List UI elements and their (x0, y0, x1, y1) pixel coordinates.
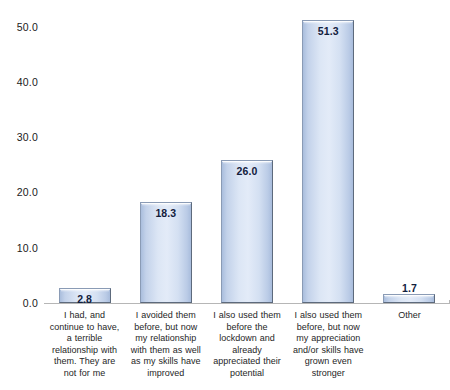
bar-slot-3: 26.0 (206, 0, 287, 303)
bar-value-5: 1.7 (402, 282, 417, 294)
x-axis-line (44, 303, 450, 304)
y-tick-label-40: 40.0 (17, 77, 38, 87)
y-tick-label-30: 30.0 (17, 132, 38, 142)
category-slot-3: I also used them before the lockdown and… (206, 306, 287, 380)
bar-top-highlight-icon (61, 289, 109, 292)
bar-1[interactable]: 2.8 (59, 288, 111, 304)
category-slot-1: I had, and continue to have, a terrible … (44, 306, 125, 380)
bar-slot-1: 2.8 (44, 0, 125, 303)
bar-top-highlight-icon (385, 295, 433, 298)
category-slot-4: I also used them before, but now my appr… (288, 306, 369, 380)
y-tick-label-50: 50.0 (17, 22, 38, 32)
bar-2[interactable]: 18.3 (140, 202, 192, 303)
bar-slot-2: 18.3 (125, 0, 206, 303)
y-tick-label-20: 20.0 (17, 187, 38, 197)
bar-5[interactable]: 1.7 (383, 294, 435, 303)
y-tick-label-10: 10.0 (17, 243, 38, 253)
bar-value-2: 18.3 (155, 207, 176, 219)
bar-top-highlight-icon (304, 21, 352, 24)
category-label-4: I also used them before, but now my appr… (291, 310, 366, 380)
bar-slot-5: 1.7 (369, 0, 450, 303)
bar-value-1: 2.8 (77, 293, 92, 305)
bar-chart: 50.0 40.0 30.0 20.0 10.0 0.0 2.8 18.3 (0, 0, 450, 390)
bar-value-4: 51.3 (318, 25, 339, 37)
x-axis-category-labels: I had, and continue to have, a terrible … (44, 306, 450, 390)
bar-top-highlight-icon (142, 203, 190, 206)
bar-series: 2.8 18.3 26.0 51.3 (44, 0, 450, 303)
y-axis: 50.0 40.0 30.0 20.0 10.0 0.0 (0, 0, 44, 390)
bar-3[interactable]: 26.0 (221, 160, 273, 304)
category-slot-5: Other (369, 306, 450, 322)
category-slot-2: I avoided them before, but now my relati… (125, 306, 206, 380)
category-label-1: I had, and continue to have, a terrible … (47, 310, 122, 380)
bar-top-highlight-icon (223, 161, 271, 164)
category-label-3: I also used them before the lockdown and… (209, 310, 284, 380)
category-label-2: I avoided them before, but now my relati… (128, 310, 203, 380)
bar-slot-4: 51.3 (288, 0, 369, 303)
y-tick-label-0: 0.0 (23, 298, 38, 308)
bar-4[interactable]: 51.3 (302, 20, 354, 303)
bar-value-3: 26.0 (237, 165, 258, 177)
category-label-5: Other (372, 310, 447, 322)
plot-area: 2.8 18.3 26.0 51.3 (44, 0, 450, 304)
